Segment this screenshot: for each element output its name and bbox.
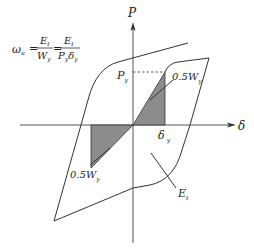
frac2-numerator: Et <box>63 35 74 47</box>
half-wy-lower-label: 0.5Wy <box>70 169 100 183</box>
frac1-denominator: Wy <box>37 50 51 63</box>
lower-shaded-triangle <box>91 125 133 168</box>
p-axis-label: P <box>127 6 137 20</box>
energy-ratio-formula: ωu = Et Wy = Et Pyδy <box>12 35 80 63</box>
hysteresis-diagram: P δ Py δy 0.5Wy 0.5Wy Et ωu = Et Wy = Et… <box>0 0 254 251</box>
frac2-denominator: Pyδy <box>57 50 78 63</box>
half-wy-upper-label: 0.5Wy <box>172 71 202 85</box>
frac1-numerator: Et <box>39 35 50 47</box>
delta-axis-label: δ <box>238 119 245 133</box>
upper-shaded-triangle <box>133 72 165 125</box>
inner-loop-upper <box>165 58 209 125</box>
formula-lhs: ωu <box>12 43 25 56</box>
et-label: Et <box>177 187 189 201</box>
delta-y-label: δy <box>158 129 171 144</box>
py-label: Py <box>116 69 128 84</box>
